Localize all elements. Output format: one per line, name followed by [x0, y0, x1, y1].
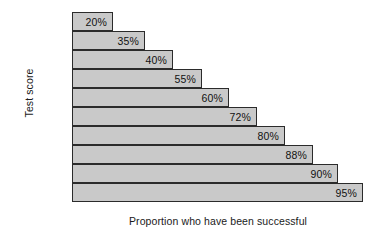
bar[interactable]: 35% — [72, 31, 145, 50]
bar-value-label: 20% — [85, 13, 107, 32]
bar-value-label: 35% — [117, 32, 139, 51]
bar-value-label: 55% — [174, 70, 196, 89]
bar[interactable]: 40% — [72, 50, 173, 69]
bar[interactable]: 88% — [72, 145, 313, 164]
bar[interactable]: 80% — [72, 126, 285, 145]
x-axis-title: Proportion who have been successful — [72, 212, 364, 230]
bar[interactable]: 60% — [72, 88, 229, 107]
bar[interactable]: 95% — [72, 183, 363, 202]
bar-value-label: 40% — [145, 51, 167, 70]
bar[interactable]: 55% — [72, 69, 202, 88]
bar-value-label: 72% — [229, 108, 251, 127]
bar[interactable]: 72% — [72, 107, 257, 126]
bar[interactable]: 20% — [72, 12, 113, 31]
bar-value-label: 95% — [335, 184, 357, 203]
bar-value-label: 80% — [257, 127, 279, 146]
bar-chart: Test score 1–520%6–1035%11–1540%16–2055%… — [0, 0, 376, 230]
bar-value-label: 90% — [310, 165, 332, 184]
bar[interactable]: 90% — [72, 164, 338, 183]
plot-area: 1–520%6–1035%11–1540%16–2055%21–2560%26–… — [0, 0, 376, 212]
bar-value-label: 88% — [285, 146, 307, 165]
bar-value-label: 60% — [201, 89, 223, 108]
